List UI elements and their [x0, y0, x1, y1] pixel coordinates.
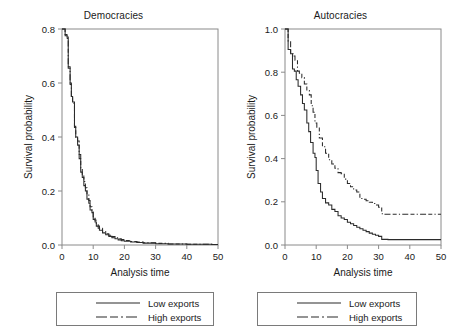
- panel-autocracies: Autocracies 010203040500.00.20.40.60.81.…: [227, 0, 454, 335]
- legend-line-solid: [95, 298, 141, 308]
- legend-row-low-exports: Low exports: [57, 296, 213, 310]
- legend-democracies: Low exports High exports: [56, 292, 214, 326]
- plot-autocracies: 010203040500.00.20.40.60.81.0Analysis ti…: [227, 0, 454, 290]
- svg-text:0.8: 0.8: [42, 24, 55, 35]
- legend-autocracies: Low exports High exports: [257, 292, 417, 326]
- svg-text:1.0: 1.0: [265, 24, 278, 35]
- legend-line-solid: [296, 298, 342, 308]
- survival-analysis-figure: Democracies 010203040500.00.20.40.60.8An…: [0, 0, 454, 335]
- legend-row-low-exports: Low exports: [258, 296, 416, 310]
- legend-label-low-exports: Low exports: [349, 298, 400, 309]
- svg-text:Survival probability: Survival probability: [246, 95, 257, 179]
- svg-text:50: 50: [436, 251, 447, 262]
- legend-label-high-exports: High exports: [349, 312, 402, 323]
- svg-text:0: 0: [282, 251, 287, 262]
- svg-text:0.6: 0.6: [42, 78, 55, 89]
- svg-text:0.4: 0.4: [265, 153, 278, 164]
- svg-text:0.6: 0.6: [265, 110, 278, 121]
- svg-text:0: 0: [59, 251, 64, 262]
- svg-text:0.2: 0.2: [42, 186, 55, 197]
- panel-democracies: Democracies 010203040500.00.20.40.60.8An…: [0, 0, 227, 335]
- svg-text:30: 30: [150, 251, 161, 262]
- svg-text:50: 50: [213, 251, 224, 262]
- svg-text:Analysis time: Analysis time: [334, 267, 393, 278]
- svg-text:Analysis time: Analysis time: [111, 267, 170, 278]
- plot-democracies: 010203040500.00.20.40.60.8Analysis timeS…: [0, 0, 227, 290]
- legend-line-dashdot: [296, 312, 342, 322]
- svg-text:20: 20: [342, 251, 353, 262]
- svg-text:0.4: 0.4: [42, 132, 55, 143]
- legend-row-high-exports: High exports: [57, 310, 213, 324]
- svg-text:40: 40: [405, 251, 416, 262]
- svg-text:0.2: 0.2: [265, 196, 278, 207]
- legend-row-high-exports: High exports: [258, 310, 416, 324]
- svg-text:10: 10: [311, 251, 322, 262]
- svg-text:10: 10: [88, 251, 99, 262]
- legend-label-high-exports: High exports: [148, 312, 201, 323]
- svg-text:0.0: 0.0: [42, 240, 55, 251]
- legend-label-low-exports: Low exports: [148, 298, 199, 309]
- svg-text:40: 40: [182, 251, 193, 262]
- svg-text:Survival probability: Survival probability: [23, 95, 34, 179]
- svg-text:0.8: 0.8: [265, 67, 278, 78]
- svg-text:30: 30: [373, 251, 384, 262]
- svg-text:0.0: 0.0: [265, 240, 278, 251]
- legend-line-dashdot: [95, 312, 141, 322]
- svg-text:20: 20: [119, 251, 130, 262]
